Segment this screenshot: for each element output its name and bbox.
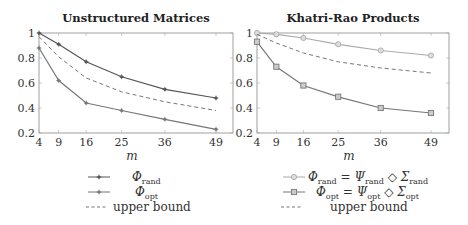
chart-title: Khatri-Rao Products	[287, 11, 420, 25]
series-1	[37, 46, 219, 132]
square-marker-icon	[378, 105, 383, 110]
series-line	[39, 48, 216, 129]
square-marker-icon	[428, 110, 433, 115]
chart-canvas: Unstructured Matrices0.20.40.60.81491625…	[0, 0, 468, 225]
y-tick-label: 0.4	[236, 102, 254, 115]
x-tick-label: 16	[296, 136, 310, 149]
legend-unstructured: ΦrandΦoptupper bound	[86, 170, 191, 214]
legend-khatri-rao: Φrand = Ψrand ◇ ΣrandΦopt = Ψopt ◇ Σoptu…	[281, 170, 428, 214]
series-0	[254, 30, 433, 58]
square-marker-icon	[274, 64, 279, 69]
x-axis-label: m	[126, 149, 137, 163]
legend-label: Φopt = Ψopt ◇ Σopt	[316, 185, 420, 201]
y-tick-label: 0.4	[18, 102, 36, 115]
y-tick-label: 0.2	[236, 127, 254, 140]
legend-label: Φrand	[132, 170, 161, 186]
circle-marker-icon	[274, 32, 279, 37]
x-tick-label: 16	[79, 136, 93, 149]
series-1	[254, 39, 433, 115]
y-tick-label: 0.6	[18, 77, 36, 90]
x-tick-label: 49	[424, 136, 438, 149]
series-2	[39, 37, 216, 111]
circle-marker-icon	[336, 42, 341, 47]
plot-frame	[39, 33, 233, 133]
plot-frame	[257, 33, 449, 133]
x-tick-label: 36	[158, 136, 172, 149]
series-2	[257, 34, 431, 73]
x-tick-label: 9	[273, 136, 280, 149]
square-marker-icon	[254, 39, 259, 44]
x-axis-label: m	[343, 149, 354, 163]
x-tick-label: 9	[55, 136, 62, 149]
legend-label: Φrand = Ψrand ◇ Σrand	[308, 170, 428, 186]
y-tick-label: 0.6	[236, 77, 254, 90]
series-line	[257, 34, 431, 73]
x-tick-label: 49	[209, 136, 223, 149]
circle-marker-icon	[378, 48, 383, 53]
x-tick-label: 4	[254, 136, 261, 149]
legend-label: upper bound	[113, 200, 191, 214]
circle-marker-icon	[291, 174, 296, 179]
x-tick-label: 25	[115, 136, 129, 149]
y-tick-label: 0.8	[18, 52, 36, 65]
chart-title: Unstructured Matrices	[62, 11, 209, 25]
y-tick-label: 0.8	[236, 52, 254, 65]
y-tick-label: 1	[28, 27, 35, 40]
series-line	[39, 37, 216, 111]
legend-label: upper bound	[330, 200, 408, 214]
circle-marker-icon	[428, 53, 433, 58]
y-tick-label: 0.2	[18, 127, 36, 140]
square-marker-icon	[291, 189, 296, 194]
series-line	[39, 33, 216, 98]
chart-unstructured: Unstructured Matrices0.20.40.60.81491625…	[18, 11, 234, 163]
square-marker-icon	[336, 94, 341, 99]
y-tick-label: 1	[246, 27, 253, 40]
circle-marker-icon	[301, 35, 306, 40]
x-tick-label: 36	[374, 136, 388, 149]
series-line	[257, 33, 431, 56]
series-0	[37, 31, 219, 101]
x-tick-label: 25	[331, 136, 345, 149]
x-tick-label: 4	[36, 136, 43, 149]
square-marker-icon	[301, 83, 306, 88]
chart-khatri-rao: Khatri-Rao Products0.20.40.60.8149162536…	[236, 11, 450, 163]
legend-label: Φopt	[135, 185, 159, 201]
